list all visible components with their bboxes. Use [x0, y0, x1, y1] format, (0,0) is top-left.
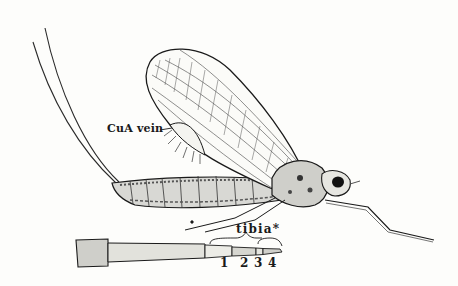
tarsal-segment-2-label: 2 — [240, 256, 248, 270]
compound-eye — [332, 177, 344, 188]
mayfly-drawing — [0, 0, 458, 286]
tibia-label: tibia* — [236, 222, 280, 236]
tarsal-segment-4-label: 4 — [268, 256, 276, 270]
thorax — [272, 161, 328, 207]
cua-vein-label: CuA vein — [107, 122, 163, 135]
leg-detail — [76, 232, 282, 267]
tarsal-segment-3-label: 3 — [254, 256, 262, 270]
mayfly-illustration: CuA vein tibia* 1 2 3 4 — [0, 0, 458, 286]
tarsal-segment-1-label: 1 — [220, 256, 228, 270]
cerci — [33, 28, 119, 183]
head — [322, 171, 360, 196]
foreleg — [325, 200, 434, 242]
